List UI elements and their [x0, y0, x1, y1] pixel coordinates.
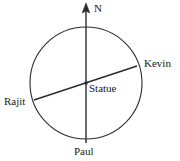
label-paul: Paul — [74, 146, 94, 157]
diagram-canvas — [0, 0, 180, 161]
label-statue: Statue — [89, 83, 117, 94]
compass-circle-diagram: N Kevin Statue Rajit Paul — [0, 0, 180, 161]
label-rajit: Rajit — [4, 96, 25, 107]
label-kevin: Kevin — [144, 58, 171, 69]
label-north: N — [94, 3, 102, 14]
statue-center-point — [84, 81, 88, 85]
